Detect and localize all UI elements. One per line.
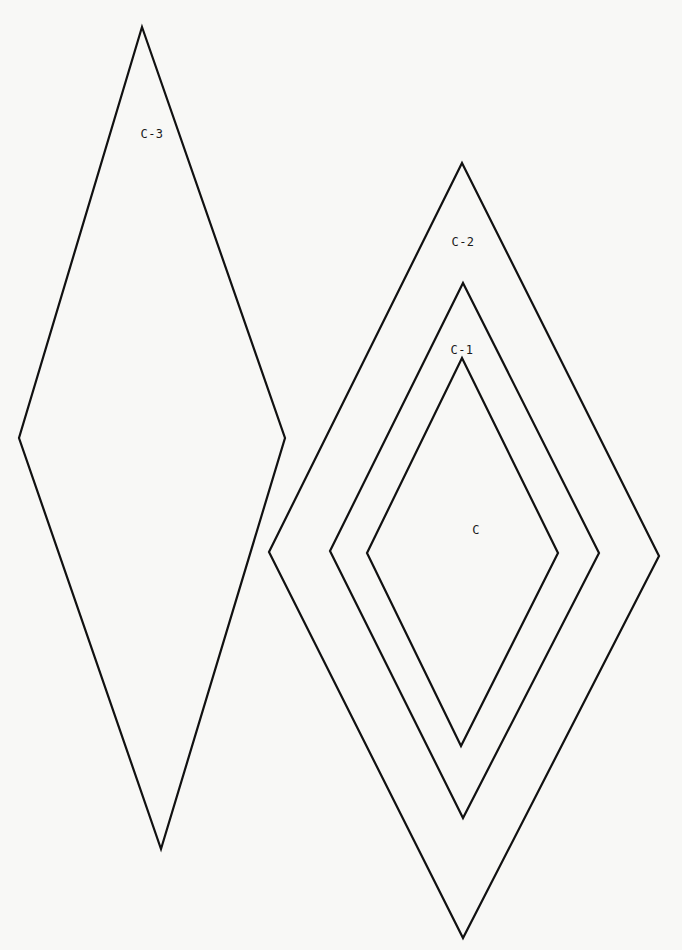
label-c: C: [472, 523, 480, 537]
label-c-1: C-1: [450, 343, 473, 357]
diamond-c-2: [269, 163, 659, 938]
label-c-3: C-3: [140, 127, 163, 141]
pattern-sheet: C-3 C-2 C-1 C: [0, 0, 682, 950]
diamond-c-3: [19, 27, 285, 849]
label-c-2: C-2: [451, 235, 474, 249]
diagram-canvas: [0, 0, 682, 950]
